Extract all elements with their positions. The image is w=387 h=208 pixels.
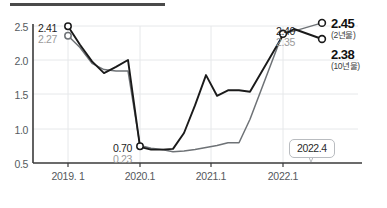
annotation-start-2y: 2.27 [38,34,57,45]
x-tick-2022: 2022.1 [253,170,313,182]
trough-point-marker [137,143,143,149]
annotation-trough-2y: 0.23 [113,154,132,165]
end-label-10y-value: 2.38 [331,48,360,62]
end-label-2y-group: 2.45 (2년물) [331,17,355,40]
x-tick-2019: 2019. 1 [38,170,98,182]
grid-horizontal [33,26,358,129]
x-tick-2020: 2020.1 [110,170,170,182]
callout-2022-4: 2022.4 [289,139,335,158]
end-label-10y-group: 2.38 (10년물) [331,48,360,71]
end-label-2y-value: 2.45 [331,17,355,31]
chart-container: 2.5 2.0 1.5 1.0 0.5 [0,0,387,208]
annotation-late-2y: 2.35 [276,37,295,48]
x-tick-2021: 2021.1 [181,170,241,182]
end-label-2y-note: (2년물) [331,31,355,40]
end-label-10y-note: (10년물) [331,62,360,71]
